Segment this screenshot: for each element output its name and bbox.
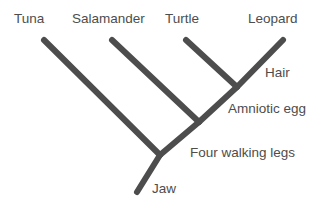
taxon-label-tuna: Tuna <box>14 12 44 26</box>
trait-label-four-walking-legs: Four walking legs <box>190 146 295 160</box>
trait-label-hair: Hair <box>265 66 290 80</box>
trait-label-jaw: Jaw <box>152 182 176 196</box>
taxon-label-salamander: Salamander <box>72 12 145 26</box>
cladogram-figure: Tuna Salamander Turtle Leopard Hair Amni… <box>0 0 335 208</box>
branch-salamander <box>112 40 199 122</box>
branch-tuna <box>44 40 160 155</box>
taxon-label-leopard: Leopard <box>248 12 298 26</box>
trait-label-amniotic-egg: Amniotic egg <box>228 102 306 116</box>
taxon-label-turtle: Turtle <box>165 12 199 26</box>
branch-turtle <box>186 40 237 87</box>
